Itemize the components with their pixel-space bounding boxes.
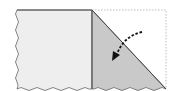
paper-left-half — [16, 10, 93, 91]
fold-diagram — [0, 0, 171, 91]
fold-diagram-svg — [0, 0, 171, 91]
